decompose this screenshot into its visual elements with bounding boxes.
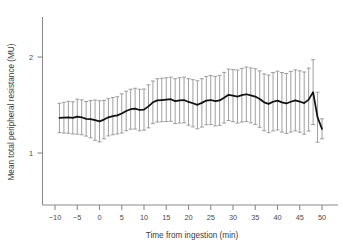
y-axis-title: Mean total peripheral resistance (MU) <box>7 43 16 180</box>
x-tick-label: 20 <box>184 213 192 222</box>
x-tick-label: 0 <box>97 213 101 222</box>
x-tick-label: 45 <box>296 213 304 222</box>
mean-series-line <box>59 92 322 129</box>
x-tick-label: 25 <box>207 213 215 222</box>
x-tick-label: 10 <box>140 213 148 222</box>
y-axis-ticks: 12 <box>29 53 43 158</box>
x-axis-title: Time from ingestion (min) <box>146 231 239 240</box>
x-tick-label: −10 <box>49 213 62 222</box>
x-tick-label: 40 <box>273 213 281 222</box>
x-tick-label: 30 <box>229 213 237 222</box>
x-tick-label: −5 <box>73 213 81 222</box>
y-tick-label: 2 <box>29 53 33 62</box>
x-tick-label: 15 <box>162 213 170 222</box>
figure-container: 12 −10−505101520253035404550 Mean total … <box>0 0 343 246</box>
x-tick-label: 35 <box>251 213 259 222</box>
x-axis-ticks: −10−505101520253035404550 <box>49 205 326 222</box>
error-bar-group <box>57 60 324 143</box>
y-tick-label: 1 <box>29 149 33 158</box>
x-tick-label: 50 <box>318 213 326 222</box>
x-tick-label: 5 <box>120 213 124 222</box>
tpr-line-chart: 12 −10−505101520253035404550 Mean total … <box>0 0 343 246</box>
